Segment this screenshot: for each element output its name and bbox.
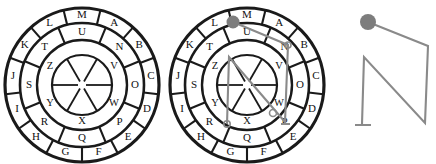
wheel-letter-y: Y <box>211 97 219 108</box>
wheel-divider-outer <box>144 92 159 94</box>
wheel-letter-q: Q <box>243 131 251 143</box>
wheel-divider-inner <box>67 59 80 82</box>
wheel-letter-m: M <box>77 8 87 20</box>
wheel-divider-middle <box>223 28 230 44</box>
wheel-letter-j: J <box>176 69 181 81</box>
wheel-divider-outer <box>123 27 133 38</box>
wheel-letter-d: D <box>143 102 151 114</box>
wheel-letter-z: Z <box>212 60 218 71</box>
wheel-letter-p: P <box>116 115 122 127</box>
wheel-letter-s: S <box>191 78 197 90</box>
wheel-divider-outer <box>31 27 41 38</box>
wheel-divider-middle <box>25 61 41 68</box>
wheel-divider-outer <box>184 120 196 129</box>
diagram-canvas: ABCDEFGHIJKLMNOPQRSTUVWXYZABCDEFGHIJKLMN… <box>0 0 436 164</box>
wheel-divider-middle <box>124 102 140 109</box>
wheel-letter-b: B <box>301 38 308 50</box>
wheel-ring-outer-inner-edge <box>185 23 309 147</box>
wheel-divider-middle <box>223 127 230 143</box>
wheel-letter-q: Q <box>78 131 86 143</box>
wheel-divider-outer <box>133 120 145 129</box>
wheel-divider-outer <box>6 92 21 94</box>
wheel-letter-y: Y <box>46 97 54 108</box>
wheel-letter-a: A <box>110 16 118 28</box>
wheel-letter-v: V <box>110 60 118 71</box>
wheel-divider-outer <box>64 10 68 25</box>
wheel-divider-middle <box>58 127 65 143</box>
wheel-letter-s: S <box>26 78 32 90</box>
wheel-letter-l: L <box>46 16 53 28</box>
wheel-divider-middle <box>289 102 305 109</box>
wheel-letter-j: J <box>11 69 16 81</box>
wheel-letter-c: C <box>147 69 154 81</box>
generated-geometry: ABCDEFGHIJKLMNOPQRSTUVWXYZABCDEFGHIJKLMN… <box>5 8 428 162</box>
wheel-divider-inner <box>84 88 97 111</box>
wheel-ring-outer-inner-edge <box>20 23 144 147</box>
wheel-letter-h: H <box>32 130 40 142</box>
wheel-letter-h: H <box>197 130 205 142</box>
wheel-letter-z: Z <box>47 60 53 71</box>
wheel-letter-t: T <box>206 40 213 52</box>
wheel-divider-middle <box>190 61 206 68</box>
wheel-divider-inner <box>84 59 97 82</box>
key-trace-line <box>227 22 288 124</box>
wheel-letter-f: F <box>96 145 102 157</box>
wheel-letter-r: R <box>41 115 49 127</box>
wheel-letter-b: B <box>136 38 143 50</box>
wheel-letter-w: W <box>109 97 119 108</box>
key-trace-pin-2 <box>270 110 277 117</box>
wheel-letter-d: D <box>308 102 316 114</box>
wheel-letter-k: K <box>21 38 29 50</box>
wheel-divider-outer <box>97 10 101 25</box>
wheel-divider-outer <box>305 58 319 63</box>
key-trace-line <box>362 22 428 124</box>
wheel-letter-u: U <box>78 25 86 37</box>
wheel-letter-v: V <box>275 60 283 71</box>
wheel-divider-outer <box>111 140 118 153</box>
wheel-letter-o: O <box>131 78 139 90</box>
wheel-divider-outer <box>196 27 206 38</box>
wheel-divider-outer <box>46 140 53 153</box>
wheel-letter-g: G <box>226 145 234 157</box>
cipher-wheel-left[interactable]: ABCDEFGHIJKLMNOPQRSTUVWXYZ <box>5 8 159 162</box>
cipher-wheel-diagram: ABCDEFGHIJKLMNOPQRSTUVWXYZABCDEFGHIJKLMN… <box>0 0 436 164</box>
wheel-letter-e: E <box>290 130 297 142</box>
wheel-divider-middle <box>58 28 65 44</box>
wheel-divider-middle <box>289 61 305 68</box>
wheel-letter-f: F <box>261 145 267 157</box>
wheel-letter-o: O <box>296 78 304 90</box>
wheel-letter-x: X <box>243 115 251 126</box>
wheel-letter-k: K <box>186 38 194 50</box>
wheel-letter-l: L <box>211 16 218 28</box>
wheel-letter-g: G <box>61 145 69 157</box>
wheel-letter-e: E <box>125 130 132 142</box>
wheel-divider-middle <box>25 102 41 109</box>
wheel-letter-w: W <box>274 97 284 108</box>
wheel-letter-i: I <box>15 102 19 114</box>
cipher-wheel-middle[interactable]: ABCDEFGHIJKLMNOPQRSTUVWXYZ <box>170 8 324 162</box>
wheel-divider-middle <box>190 102 206 109</box>
wheel-divider-outer <box>19 120 31 129</box>
traced-key-path-isolated[interactable] <box>355 14 428 125</box>
wheel-divider-outer <box>262 10 266 25</box>
wheel-divider-outer <box>211 140 218 153</box>
wheel-letter-x: X <box>78 115 86 126</box>
wheel-divider-outer <box>140 58 154 63</box>
wheel-divider-middle <box>99 127 106 143</box>
key-trace-start-dot <box>360 14 376 30</box>
wheel-divider-inner <box>67 88 80 111</box>
wheel-divider-middle <box>99 28 106 44</box>
wheel-divider-outer <box>171 92 186 94</box>
wheel-divider-outer <box>298 120 310 129</box>
wheel-letter-a: A <box>275 16 283 28</box>
wheel-divider-outer <box>10 58 24 63</box>
wheel-divider-outer <box>175 58 189 63</box>
wheel-divider-outer <box>276 140 283 153</box>
wheel-divider-inner <box>232 88 245 111</box>
wheel-letter-n: N <box>116 40 124 52</box>
wheel-letter-r: R <box>206 115 214 127</box>
key-trace-start-dot <box>227 16 240 29</box>
wheel-letter-t: T <box>41 40 48 52</box>
wheel-divider-inner <box>249 59 262 82</box>
wheel-letter-m: M <box>242 8 252 20</box>
